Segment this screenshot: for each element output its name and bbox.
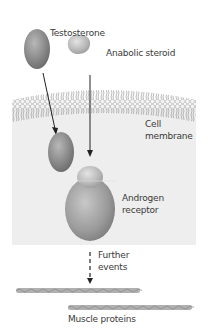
muscle-proteins-label: Muscle proteins bbox=[68, 314, 136, 325]
testosterone-label: Testosterone bbox=[50, 28, 105, 39]
muscle-protein-fibers bbox=[16, 288, 194, 310]
arrow-head-icon bbox=[87, 278, 93, 284]
bound-steroid bbox=[77, 166, 103, 188]
cell-membrane bbox=[12, 90, 196, 122]
cell-membrane-label-line2: membrane bbox=[145, 131, 193, 142]
androgen-receptor-label-line1: Androgen bbox=[122, 193, 164, 204]
anabolic-steroid-label: Anabolic steroid bbox=[106, 48, 175, 59]
androgen-receptor-label-line2: receptor bbox=[122, 205, 158, 216]
cell-membrane-label-line1: Cell bbox=[145, 119, 161, 130]
arrow-head-icon bbox=[87, 150, 93, 157]
diagram-graphics bbox=[0, 0, 208, 335]
testosterone-molecule bbox=[24, 29, 50, 69]
further-events-label-line2: events bbox=[98, 262, 127, 273]
further-events-label-line1: Further bbox=[98, 250, 129, 261]
testosterone-molecule-internal bbox=[48, 132, 74, 172]
